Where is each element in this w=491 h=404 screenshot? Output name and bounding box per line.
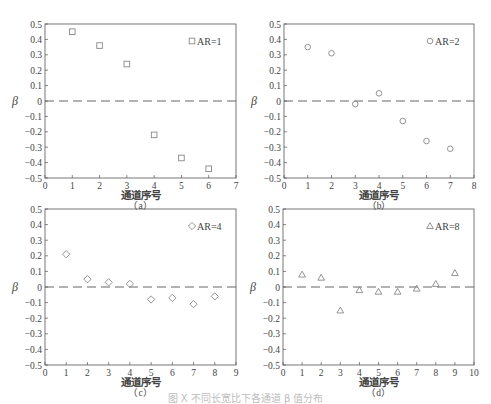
figure-caption: 图 X 不同长宽比下各通道 β 值分布 — [0, 390, 491, 404]
y-tick-label: −0.3 — [264, 143, 281, 153]
y-tick-label: 0.1 — [268, 267, 280, 277]
y-tick-label: 0.1 — [269, 81, 281, 91]
x-tick-label: 5 — [179, 181, 184, 191]
x-tick-label: 8 — [433, 368, 438, 378]
data-point-diamond — [105, 279, 112, 286]
y-tick-label: 0.3 — [269, 50, 281, 60]
y-tick-label: −0.1 — [25, 112, 42, 122]
y-tick-label: −0.3 — [263, 329, 280, 339]
chart-panel-b: 0.50.40.30.20.10−0.1−0.2−0.3−0.4−0.50123… — [250, 20, 477, 212]
data-point-triangle — [432, 281, 439, 287]
y-tick-label: 0.3 — [268, 236, 280, 246]
y-tick-label: 0.3 — [30, 50, 42, 60]
x-tick-label: 8 — [472, 181, 477, 191]
data-point-diamond — [147, 296, 154, 303]
data-point-diamond — [63, 251, 70, 258]
x-tick-label: 6 — [424, 181, 429, 191]
x-tick-label: 3 — [353, 181, 358, 191]
y-tick-label: −0.3 — [25, 329, 42, 339]
x-tick-label: 1 — [300, 368, 305, 378]
y-tick-label: −0.5 — [264, 174, 281, 184]
data-point-circle — [305, 44, 311, 50]
data-point-triangle — [337, 307, 344, 313]
y-tick-label: 0.5 — [269, 20, 281, 30]
y-tick-label: −0.4 — [264, 158, 281, 168]
x-tick-label: 7 — [234, 181, 239, 191]
y-tick-label: 0.4 — [30, 220, 42, 230]
legend-label: AR=1 — [197, 36, 222, 47]
y-tick-label: 0.3 — [30, 236, 42, 246]
y-tick-label: −0.5 — [263, 361, 280, 371]
y-tick-label: −0.2 — [25, 314, 42, 324]
y-tick-label: −0.4 — [25, 345, 42, 355]
x-tick-label: 7 — [414, 368, 419, 378]
y-tick-label: −0.5 — [25, 361, 42, 371]
data-point-square — [69, 29, 75, 35]
y-tick-label: −0.1 — [264, 112, 281, 122]
y-tick-label: 0 — [275, 283, 280, 293]
data-point-triangle — [413, 285, 420, 291]
y-axis-label: β — [249, 280, 256, 294]
x-tick-label: 2 — [329, 181, 334, 191]
x-tick-label: 10 — [469, 368, 479, 378]
x-tick-label: 0 — [281, 368, 286, 378]
legend-triangle-icon — [427, 223, 434, 229]
data-point-triangle — [394, 288, 401, 294]
legend-label: AR=2 — [435, 36, 460, 47]
data-point-triangle — [375, 288, 382, 294]
y-axis-label: β — [11, 280, 18, 294]
y-tick-label: −0.2 — [25, 127, 42, 137]
y-tick-label: −0.3 — [25, 143, 42, 153]
x-tick-label: 1 — [70, 181, 75, 191]
x-tick-label: 2 — [97, 181, 102, 191]
x-tick-label: 3 — [338, 368, 343, 378]
y-axis-label: β — [11, 94, 18, 108]
x-tick-label: 8 — [212, 368, 217, 378]
y-tick-label: −0.2 — [263, 314, 280, 324]
data-point-triangle — [299, 271, 306, 277]
y-tick-label: 0.4 — [269, 35, 281, 45]
y-tick-label: 0 — [37, 283, 42, 293]
data-point-diamond — [190, 301, 197, 308]
chart-panel-d: 0.50.40.30.20.10−0.1−0.2−0.3−0.4−0.50123… — [249, 205, 479, 399]
x-tick-label: 3 — [106, 368, 111, 378]
data-point-square — [151, 132, 157, 138]
data-point-diamond — [211, 293, 218, 300]
x-axis-label: 通道序号 — [359, 189, 399, 201]
data-point-square — [124, 61, 130, 67]
data-point-diamond — [84, 276, 91, 283]
data-point-diamond — [169, 294, 176, 301]
x-axis-label: 通道序号 — [121, 376, 161, 388]
legend-label: AR=4 — [197, 221, 222, 232]
x-tick-label: 0 — [282, 181, 287, 191]
x-tick-label: 2 — [85, 368, 90, 378]
y-tick-label: −0.4 — [25, 158, 42, 168]
data-point-circle — [447, 146, 453, 152]
y-tick-label: −0.1 — [25, 298, 42, 308]
legend-label: AR=8 — [435, 221, 460, 232]
legend-square-icon — [189, 38, 195, 44]
y-tick-label: 0.5 — [268, 205, 280, 215]
y-tick-label: 0.4 — [30, 35, 42, 45]
y-tick-label: 0 — [276, 97, 281, 107]
data-point-triangle — [318, 274, 325, 280]
data-point-triangle — [452, 270, 459, 276]
y-tick-label: 0.5 — [30, 205, 42, 215]
y-tick-label: −0.2 — [264, 127, 281, 137]
data-point-square — [206, 166, 212, 172]
x-axis-label: 通道序号 — [121, 189, 161, 201]
legend-diamond-icon — [188, 222, 195, 229]
y-axis-label: β — [250, 94, 257, 108]
chart-figure: 0.50.40.30.20.10−0.1−0.2−0.3−0.4−0.50123… — [0, 0, 491, 404]
y-tick-label: −0.1 — [263, 298, 280, 308]
y-tick-label: 0.2 — [268, 251, 280, 261]
y-tick-label: 0 — [37, 97, 42, 107]
y-tick-label: 0.1 — [30, 267, 42, 277]
x-tick-label: 0 — [43, 181, 48, 191]
y-tick-label: 0.2 — [269, 66, 281, 76]
data-point-square — [97, 43, 103, 49]
x-tick-label: 6 — [206, 181, 211, 191]
chart-panel-c: 0.50.40.30.20.10−0.1−0.2−0.3−0.4−0.50123… — [11, 205, 239, 399]
x-tick-label: 1 — [64, 368, 69, 378]
data-point-circle — [400, 118, 406, 124]
